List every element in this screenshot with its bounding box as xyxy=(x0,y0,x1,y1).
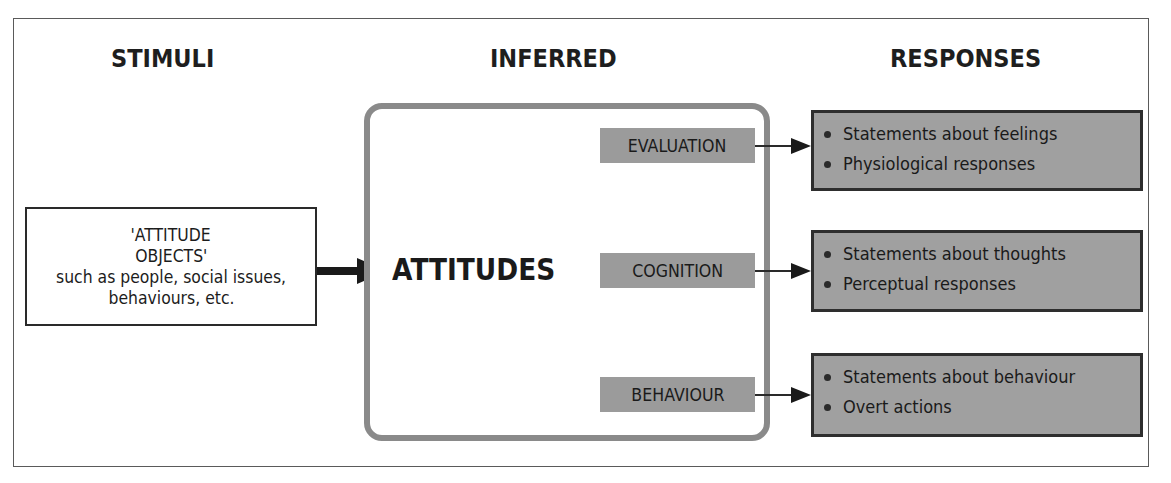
evaluation-arrow-head-icon xyxy=(791,138,811,154)
stimulus-line: 'ATTITUDE xyxy=(131,225,211,246)
bullet-icon xyxy=(824,281,831,288)
component-label: EVALUATION xyxy=(628,135,727,156)
header-responses: RESPONSES xyxy=(890,44,1041,73)
cognition-arrow-head-icon xyxy=(791,263,811,279)
response-box-evaluation: Statements about feelings Physiological … xyxy=(811,110,1143,191)
bullet-icon xyxy=(824,404,831,411)
response-box-behaviour: Statements about behaviour Overt actions xyxy=(811,353,1143,437)
header-inferred: INFERRED xyxy=(490,44,617,73)
behaviour-arrow-shaft xyxy=(755,394,793,396)
component-behaviour: BEHAVIOUR xyxy=(600,377,755,412)
component-evaluation: EVALUATION xyxy=(600,128,755,163)
list-item: Statements about behaviour xyxy=(820,362,1140,392)
bullet-icon xyxy=(824,161,831,168)
stimulus-line: behaviours, etc. xyxy=(108,288,234,309)
response-text: Perceptual responses xyxy=(843,269,1016,299)
stimulus-line: such as people, social issues, xyxy=(56,267,286,288)
stimulus-line: OBJECTS' xyxy=(135,246,207,267)
attitudes-label: ATTITUDES xyxy=(392,252,555,287)
response-text: Statements about thoughts xyxy=(843,239,1066,269)
component-label: BEHAVIOUR xyxy=(631,384,724,405)
bullet-icon xyxy=(824,251,831,258)
response-text: Statements about feelings xyxy=(843,119,1057,149)
evaluation-arrow-shaft xyxy=(755,145,793,147)
response-text: Physiological responses xyxy=(843,149,1035,179)
cognition-arrow-shaft xyxy=(755,270,793,272)
list-item: Physiological responses xyxy=(820,149,1140,179)
component-cognition: COGNITION xyxy=(600,253,755,288)
response-box-cognition: Statements about thoughts Perceptual res… xyxy=(811,230,1143,312)
header-stimuli: STIMULI xyxy=(111,44,214,73)
stimulus-box: 'ATTITUDE OBJECTS' such as people, socia… xyxy=(25,207,317,326)
list-item: Statements about feelings xyxy=(820,119,1140,149)
list-item: Perceptual responses xyxy=(820,269,1140,299)
bullet-icon xyxy=(824,131,831,138)
behaviour-arrow-head-icon xyxy=(791,387,811,403)
list-item: Statements about thoughts xyxy=(820,239,1140,269)
response-text: Overt actions xyxy=(843,392,952,422)
component-label: COGNITION xyxy=(632,260,723,281)
list-item: Overt actions xyxy=(820,392,1140,422)
response-text: Statements about behaviour xyxy=(843,362,1075,392)
stimulus-arrow-shaft xyxy=(317,267,359,275)
bullet-icon xyxy=(824,374,831,381)
